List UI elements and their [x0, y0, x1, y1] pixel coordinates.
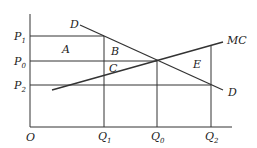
q2-label: Q2: [205, 130, 219, 145]
q1-label: Q1: [98, 130, 112, 145]
area-a-label: A: [61, 43, 70, 56]
demand-label-top: D: [69, 18, 79, 31]
supply-demand-diagram: O P1 P0 P2 Q1 Q0 Q2 D D MC A B C E: [0, 0, 257, 148]
area-c-label: C: [109, 62, 118, 75]
q0-label: Q0: [151, 130, 165, 145]
origin-label: O: [26, 131, 35, 144]
p1-label: P1: [13, 30, 26, 45]
p0-label: P0: [13, 55, 26, 70]
area-b-label: B: [110, 45, 119, 58]
p2-label: P2: [13, 79, 26, 94]
demand-label-bottom: D: [227, 86, 237, 99]
demand-curve: [80, 25, 223, 90]
mc-label: MC: [226, 34, 247, 47]
area-e-label: E: [192, 58, 201, 71]
